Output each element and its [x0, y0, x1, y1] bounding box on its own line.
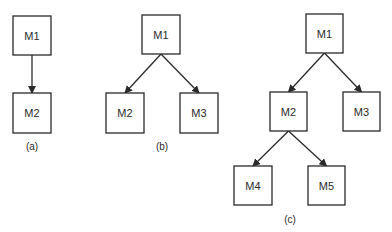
module-node-m2: M2 — [106, 93, 144, 133]
diagram-caption-b: (b) — [156, 141, 168, 152]
diagram-a: M1M2(a) — [13, 16, 51, 152]
module-node-m3: M3 — [180, 93, 218, 133]
arrow-m2-to-m4 — [253, 131, 289, 166]
module-label: M4 — [245, 180, 260, 192]
arrow-m1-to-m3 — [161, 54, 199, 93]
diagram-c: M1M2M3M4M5(c) — [234, 14, 380, 225]
module-node-m4: M4 — [234, 166, 272, 205]
module-node-m1: M1 — [13, 16, 51, 55]
module-node-m2: M2 — [13, 93, 51, 133]
diagram-caption-a: (a) — [26, 141, 38, 152]
module-label: M3 — [191, 107, 206, 119]
diagram-caption-c: (c) — [284, 214, 296, 225]
module-node-m2: M2 — [270, 92, 307, 131]
module-node-m3: M3 — [343, 92, 380, 131]
arrow-m1-to-m2 — [289, 53, 325, 92]
module-label: M2 — [24, 107, 39, 119]
module-label: M2 — [281, 106, 296, 118]
module-node-m5: M5 — [308, 166, 345, 205]
arrow-m2-to-m5 — [289, 131, 327, 166]
module-label: M1 — [317, 28, 332, 40]
module-label: M5 — [319, 180, 334, 192]
module-label: M1 — [153, 29, 168, 41]
module-hierarchy-diagram: M1M2(a)M1M2M3(b)M1M2M3M4M5(c) — [0, 0, 392, 232]
arrow-m1-to-m3 — [325, 53, 362, 92]
diagram-b: M1M2M3(b) — [106, 15, 218, 152]
module-node-m1: M1 — [306, 14, 343, 53]
module-label: M3 — [354, 106, 369, 118]
module-label: M1 — [24, 30, 39, 42]
module-label: M2 — [117, 107, 132, 119]
module-node-m1: M1 — [142, 15, 180, 54]
arrow-m1-to-m2 — [125, 54, 161, 93]
